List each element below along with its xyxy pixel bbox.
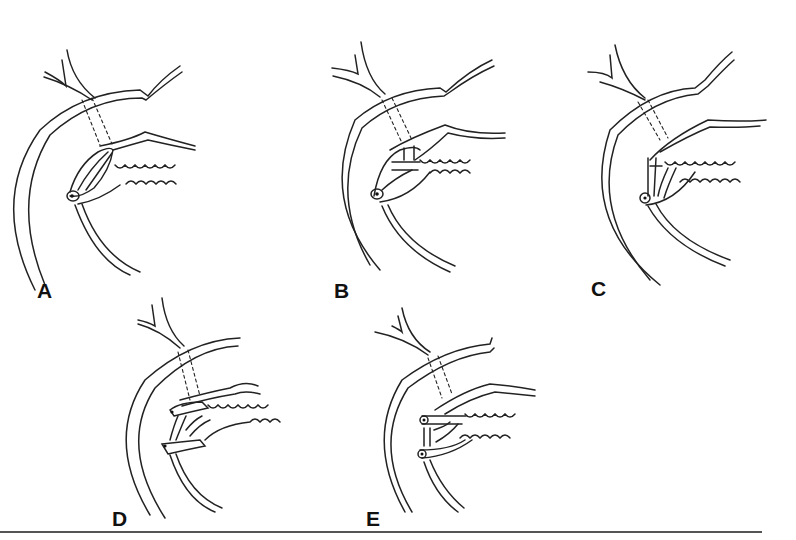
duct-diagram-b — [300, 0, 550, 300]
panel-label-d: D — [112, 507, 127, 531]
panel-a: A — [0, 0, 270, 300]
duct-diagram-d — [90, 290, 350, 540]
panel-label-e: E — [366, 507, 380, 531]
panel-c: C — [550, 0, 796, 300]
bottom-rule — [0, 531, 762, 533]
panel-e: E — [350, 290, 610, 540]
duct-diagram-a — [0, 0, 270, 300]
panel-d: D — [90, 290, 350, 540]
panel-b: B — [300, 0, 550, 300]
duct-diagram-c — [550, 0, 796, 300]
panel-label-a: A — [37, 279, 52, 303]
duct-diagram-e — [350, 290, 610, 540]
